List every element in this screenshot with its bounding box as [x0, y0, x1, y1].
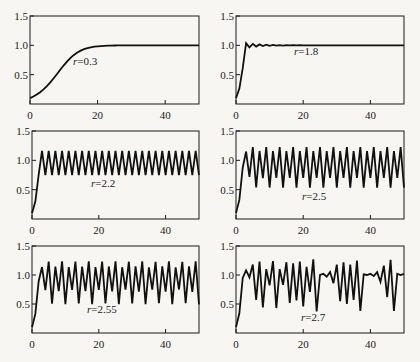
y-tick-label: 1.5 [220, 125, 234, 137]
panel-r-1.8: 0.51.01.502040r=1.8 [220, 10, 404, 121]
series-annotation: r=2.2 [91, 177, 115, 189]
x-tick-label: 20 [298, 109, 310, 121]
x-tick-label: 40 [160, 109, 172, 121]
x-tick-label: 0 [29, 224, 35, 236]
x-tick-label: 40 [365, 109, 377, 121]
y-tick-label: 1.0 [220, 39, 234, 51]
series-annotation: r=1.8 [294, 45, 319, 57]
y-tick-label: 1.5 [14, 10, 28, 22]
data-line [30, 45, 199, 98]
y-tick-label: 1.0 [14, 39, 28, 51]
panel-r-2.55: 0.51.01.502040r=2.55 [16, 240, 199, 350]
y-tick-label: 0.5 [16, 298, 30, 310]
x-tick-label: 20 [298, 224, 310, 236]
panel-r-0.3: 0.51.01.502040r=0.3 [14, 10, 199, 121]
data-line [236, 43, 404, 98]
x-tick-label: 20 [93, 224, 105, 236]
y-tick-label: 0.5 [220, 184, 234, 196]
x-tick-label: 20 [298, 338, 310, 350]
x-tick-label: 40 [365, 338, 377, 350]
y-tick-label: 1.0 [16, 154, 30, 166]
series-annotation: r=0.3 [73, 55, 98, 67]
panel-r-2.5: 0.51.01.502040r=2.5 [220, 125, 404, 236]
y-tick-label: 0.5 [220, 298, 234, 310]
y-tick-label: 1.0 [16, 269, 30, 281]
y-tick-label: 1.0 [220, 154, 234, 166]
x-tick-label: 0 [233, 338, 239, 350]
axes-frame [236, 16, 404, 104]
x-tick-label: 0 [233, 224, 239, 236]
data-line [236, 147, 404, 213]
y-tick-label: 1.5 [16, 240, 30, 252]
data-line [32, 261, 199, 327]
data-line [32, 151, 199, 213]
x-tick-label: 20 [92, 109, 104, 121]
x-tick-label: 40 [160, 338, 172, 350]
y-tick-label: 0.5 [220, 69, 234, 81]
x-tick-label: 0 [233, 109, 239, 121]
figure: 0.51.01.502040r=0.30.51.01.502040r=1.80.… [0, 0, 420, 362]
y-tick-label: 1.0 [220, 269, 234, 281]
y-tick-label: 0.5 [16, 184, 30, 196]
y-tick-label: 0.5 [14, 69, 28, 81]
x-tick-label: 20 [93, 338, 105, 350]
x-tick-label: 40 [365, 224, 377, 236]
y-tick-label: 1.5 [16, 125, 30, 137]
x-tick-label: 40 [160, 224, 172, 236]
axes-frame [30, 16, 199, 104]
series-annotation: r=2.55 [87, 303, 117, 315]
series-annotation: r=2.7 [301, 311, 326, 323]
axes-frame [32, 131, 199, 219]
panel-r-2.2: 0.51.01.502040r=2.2 [16, 125, 199, 236]
y-tick-label: 1.5 [220, 10, 234, 22]
series-annotation: r=2.5 [302, 190, 327, 202]
x-tick-label: 0 [29, 338, 35, 350]
x-tick-label: 0 [27, 109, 33, 121]
y-tick-label: 1.5 [220, 240, 234, 252]
panel-r-2.7: 0.51.01.502040r=2.7 [220, 240, 404, 350]
